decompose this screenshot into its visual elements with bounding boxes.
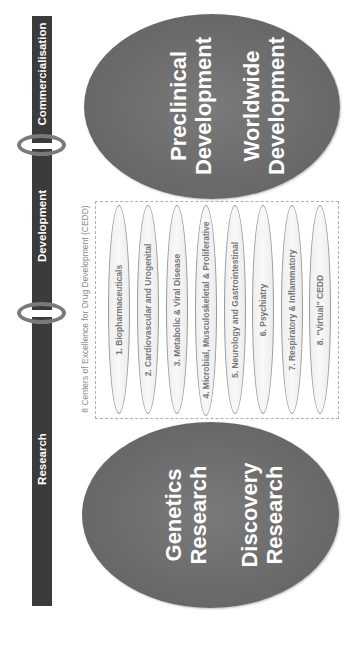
phase-label-research: Research bbox=[36, 433, 48, 485]
phase-label-development: Development bbox=[36, 190, 48, 262]
text-line: Worldwide bbox=[239, 37, 264, 175]
phase-connector-ring bbox=[17, 134, 66, 156]
cedd-label: 7. Respiratory & Inflammatory bbox=[287, 250, 297, 371]
phase-connector-ring bbox=[17, 302, 66, 324]
text-line: Development bbox=[191, 37, 216, 175]
cedd-label: 3. Metabolic & Viral Disease bbox=[172, 254, 182, 366]
cedd-label: 2. Cardiovascular and Urogenital bbox=[143, 244, 153, 377]
discovery-research-text: Discovery Research bbox=[237, 462, 287, 567]
cedd-label: 1. Biopharmaceuticals bbox=[114, 265, 124, 355]
phase-label-commercialisation: Commercialisation bbox=[36, 23, 48, 126]
text-line: Preclinical bbox=[166, 37, 191, 175]
cedd-caption: 8 Centers of Excellence for Drug Develop… bbox=[80, 205, 90, 412]
cedd-label: 4. Microbial, Musculoskeletal & Prolifer… bbox=[201, 221, 211, 398]
cedd-label: 5. Neurology and Gastrointestinal bbox=[230, 242, 240, 378]
text-line: Research bbox=[186, 465, 211, 564]
cedd-label: 8. "Virtual" CEDD bbox=[315, 275, 325, 345]
genetics-research-text: Genetics Research bbox=[161, 465, 211, 564]
cedd-label: 6. Psychiatry bbox=[258, 284, 268, 336]
worldwide-development-text: Worldwide Development bbox=[239, 37, 289, 175]
text-line: Development bbox=[264, 37, 289, 175]
preclinical-development-text: Preclinical Development bbox=[166, 37, 216, 175]
text-line: Genetics bbox=[161, 465, 186, 564]
text-line: Research bbox=[262, 462, 287, 567]
text-line: Discovery bbox=[237, 462, 262, 567]
